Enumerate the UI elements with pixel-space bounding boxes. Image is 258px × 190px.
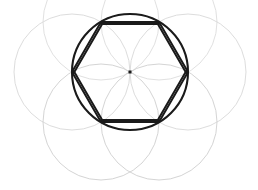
arc-top-right-construction-circle	[101, 0, 217, 80]
arc-top-left-construction-circle	[43, 0, 159, 80]
construction-arcs-group	[14, 0, 246, 180]
construction-diagram	[0, 0, 258, 190]
geometric-figure-canvas	[0, 0, 258, 190]
center-point-marker	[129, 71, 132, 74]
